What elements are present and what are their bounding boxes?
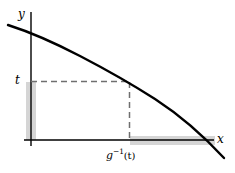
g-inverse-base: g xyxy=(106,149,113,162)
y-axis-label: y xyxy=(18,8,25,20)
function-graph-figure: y t x g−1(t) xyxy=(0,0,235,173)
g-inverse-argument: (t) xyxy=(124,150,136,161)
g-inverse-of-t-label: g−1(t) xyxy=(106,148,136,161)
t-value-label: t xyxy=(15,74,20,86)
g-inverse-exponent: −1 xyxy=(113,147,124,156)
x-axis-label: x xyxy=(217,133,224,145)
